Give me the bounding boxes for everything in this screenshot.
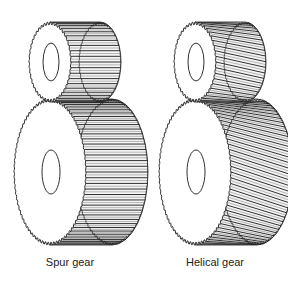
helical-gear-caption: Helical gear: [186, 256, 244, 268]
helical-gear-illustration: [159, 22, 288, 245]
spur-gear-illustration: [14, 22, 148, 245]
gear-comparison-figure: [0, 0, 288, 287]
spur-gear-caption: Spur gear: [46, 256, 94, 268]
